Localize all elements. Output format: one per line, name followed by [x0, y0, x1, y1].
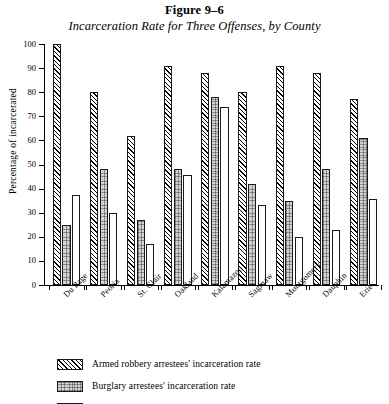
y-axis-tick-label: 30: [28, 207, 37, 217]
x-axis-tick: [198, 285, 199, 290]
bar: [109, 213, 117, 285]
chart-subtitle: Incarceration Rate for Three Offenses, b…: [0, 19, 389, 33]
bar-group: [276, 44, 303, 285]
y-axis-tick-label: 40: [28, 183, 37, 193]
x-axis-tick: [272, 285, 273, 290]
chart-legend: Armed robbery arrestees' incarceration r…: [57, 356, 387, 404]
x-axis-tick: [381, 285, 382, 290]
bar: [53, 44, 61, 285]
bar: [62, 225, 70, 285]
bar: [238, 92, 246, 285]
bar: [220, 107, 228, 285]
y-axis-tick-label: 10: [28, 255, 37, 265]
y-axis-tick-label: 100: [23, 39, 36, 49]
bar: [201, 73, 209, 285]
bar: [313, 73, 321, 285]
x-axis-tick: [121, 285, 122, 290]
x-axis-tick: [232, 285, 233, 290]
x-axis-tick: [344, 285, 345, 290]
bar-groups: [45, 44, 379, 285]
x-axis-tick: [124, 285, 125, 290]
bar-group: [350, 44, 377, 285]
legend-item: Armed robbery arrestees' incarceration r…: [57, 356, 387, 372]
legend-item: Burglary arrestees' incarceration rate: [57, 378, 387, 394]
y-axis-tick-label: 90: [28, 63, 37, 73]
bar: [164, 66, 172, 285]
legend-label: Burglary arrestees' incarceration rate: [92, 381, 235, 391]
legend-swatch: [57, 359, 83, 370]
y-axis-tick-label: 60: [28, 135, 37, 145]
y-axis-tick: 0: [39, 285, 45, 286]
bar-group: [53, 44, 80, 285]
bar-group: [164, 44, 191, 285]
x-axis-tick: [309, 285, 310, 290]
bar-group: [313, 44, 340, 285]
legend-item: [57, 400, 387, 404]
bar: [137, 220, 145, 285]
x-axis-tick: [235, 285, 236, 290]
y-axis-tick-label: 70: [28, 111, 37, 121]
bar-group: [238, 44, 265, 285]
x-axis-tick: [195, 285, 196, 290]
bar-group: [90, 44, 117, 285]
legend-label: Armed robbery arrestees' incarceration r…: [92, 359, 260, 369]
bar: [183, 175, 191, 285]
bar: [322, 169, 330, 285]
y-axis-tick-label: 50: [28, 159, 37, 169]
bar: [350, 99, 358, 285]
bar: [100, 169, 108, 285]
bar: [276, 66, 284, 285]
x-axis-tick: [84, 285, 85, 290]
bar-group: [127, 44, 154, 285]
y-axis-title: Percentage of incarcerated: [8, 61, 18, 221]
y-axis-tick-label: 0: [32, 280, 36, 290]
chart-plot-wrapper: Percentage of incarcerated 0102030405060…: [0, 38, 389, 328]
x-axis-tick: [161, 285, 162, 290]
bar: [72, 195, 80, 285]
plot-area: 0102030405060708090100 Du PagePeoriaSt. …: [44, 44, 379, 286]
x-axis-tick: [346, 285, 347, 290]
y-axis-tick-label: 80: [28, 87, 37, 97]
bar: [285, 201, 293, 285]
bar: [174, 169, 182, 285]
y-axis-tick-label: 20: [28, 231, 37, 241]
x-axis-tick: [158, 285, 159, 290]
bar: [369, 199, 377, 285]
bar: [248, 184, 256, 285]
bar-group: [201, 44, 228, 285]
x-axis-tick: [269, 285, 270, 290]
figure-title: Figure 9–6: [0, 3, 389, 17]
bar: [127, 136, 135, 285]
x-axis-tick: [49, 285, 50, 290]
x-axis-tick: [86, 285, 87, 290]
bar: [211, 97, 219, 285]
bar: [90, 92, 98, 285]
legend-swatch: [57, 381, 83, 392]
x-axis-tick: [306, 285, 307, 290]
bar: [359, 138, 367, 285]
